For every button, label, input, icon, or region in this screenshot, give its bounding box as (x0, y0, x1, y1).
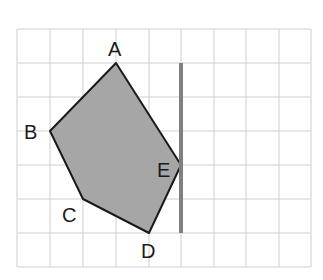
label-c: C (62, 204, 76, 226)
label-b: B (24, 121, 37, 143)
grid-diagram: A B C D E (0, 0, 323, 280)
label-a: A (108, 38, 122, 60)
label-e: E (157, 159, 170, 181)
label-d: D (141, 240, 155, 262)
